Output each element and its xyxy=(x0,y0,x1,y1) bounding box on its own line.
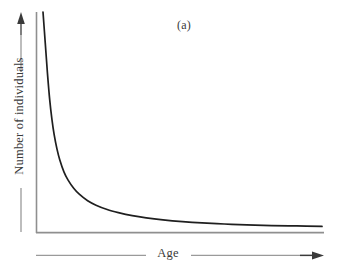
y-axis-arrowhead-icon xyxy=(17,12,25,24)
panel-label: (a) xyxy=(163,19,205,31)
x-axis-arrowhead-icon xyxy=(312,251,324,259)
chart-canvas xyxy=(0,0,339,270)
survivorship-curve-figure: (a) Age Number of individuals xyxy=(0,0,339,270)
survivorship-curve-line xyxy=(43,12,322,226)
y-axis-title-wrapper: Number of individuals xyxy=(13,54,29,178)
x-axis-title: Age xyxy=(148,247,188,260)
axes-group xyxy=(36,12,324,233)
y-axis-title: Number of individuals xyxy=(13,54,26,178)
